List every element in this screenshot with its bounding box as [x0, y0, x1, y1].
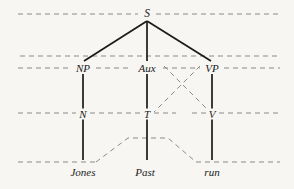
terminal-label-run: run	[203, 167, 221, 178]
dashed-guide-lines	[18, 14, 280, 162]
dashed-branch-aux-to-v	[164, 66, 208, 110]
dashed-terminal-trapezoid	[96, 138, 196, 162]
node-label-s: S	[143, 8, 152, 20]
branch-s-to-vp	[147, 21, 211, 61]
dashed-branch-vp-to-t	[154, 66, 200, 112]
node-label-vp: VP	[204, 63, 220, 74]
node-label-t: T	[142, 109, 151, 120]
trapezoid-outline	[96, 138, 196, 162]
node-label-n: N	[78, 109, 88, 120]
node-label-v: V	[207, 109, 217, 120]
tree-diagram-page: S NP Aux VP N T V Jones Past run	[0, 0, 294, 189]
node-label-aux: Aux	[137, 63, 157, 74]
tree-diagram-canvas	[0, 0, 294, 189]
terminal-label-past: Past	[134, 167, 157, 178]
branch-s-to-np	[84, 21, 147, 61]
dashed-crossing-branches	[154, 66, 208, 112]
solid-branches	[84, 21, 211, 61]
solid-stems-category-to-terminal	[83, 119, 212, 160]
terminal-label-jones: Jones	[69, 167, 97, 178]
node-label-np: NP	[74, 63, 91, 74]
solid-stems-phrase-to-category	[83, 74, 212, 109]
